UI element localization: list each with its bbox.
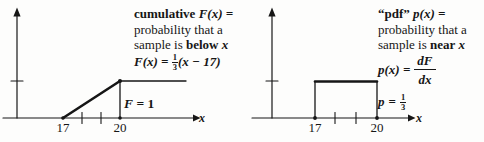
right-x-tick-label-17: 17 — [305, 120, 325, 136]
fraction-denominator: 3 — [400, 103, 406, 112]
right-caption-line1: “pdf” p(x) = — [378, 6, 484, 22]
left-caption: cumulative F(x) = probability that a sam… — [134, 6, 250, 72]
left-caption-line3: sample is below x — [134, 37, 250, 53]
left-y-axis-arrow-icon — [13, 8, 20, 17]
left-caption-line1-math: F(x) = — [199, 6, 234, 21]
fraction-numerator: 1 — [400, 93, 406, 103]
right-caption-line3-math: x — [459, 37, 466, 52]
right-x-axis-arrow-icon — [408, 114, 416, 121]
left-caption-line1-bold: cumulative — [134, 6, 195, 21]
left-caption-line2: probability that a — [134, 22, 250, 38]
right-y-axis-arrow-icon — [268, 8, 275, 17]
right-x-axis-label: x — [416, 111, 422, 126]
left-x-tick-label-17: 17 — [53, 120, 73, 136]
cdf-formula-lhs: F(x) = — [134, 53, 169, 68]
right-caption-line2: probability that a — [378, 22, 484, 38]
left-caption-line3-pre: sample is — [134, 37, 183, 52]
cdf-pdf-figure: 17 20 x F = 1 cumulative F(x) = probabil… — [0, 0, 484, 142]
right-level-label: p = 13 — [378, 93, 484, 112]
cdf-ramp-line — [63, 81, 120, 118]
left-x-tick-label-20: 20 — [110, 120, 130, 136]
cdf-formula-rhs: (x − 17) — [178, 53, 221, 68]
one-third-fraction: 13 — [400, 93, 406, 112]
pdf-derivative-formula: p(x) = dFdx — [378, 54, 484, 86]
left-caption-formula: F(x) = 13(x − 17) — [134, 53, 250, 72]
left-level-label: F = 1 — [124, 96, 154, 112]
left-caption-line3-bold: below — [186, 37, 219, 52]
right-caption-line1-math: p(x) = — [413, 6, 445, 21]
fraction-numerator: dF — [414, 54, 435, 71]
right-x-tick-label-20: 20 — [367, 120, 387, 136]
cdf-corner-point — [118, 79, 122, 83]
right-caption-line3: sample is near x — [378, 37, 484, 53]
dF-dx-fraction: dFdx — [414, 54, 435, 86]
pdf-formula-lhs: p(x) = — [378, 62, 410, 78]
left-level-label-value: = 1 — [133, 96, 154, 111]
left-level-label-var: F — [124, 96, 133, 111]
right-caption-line3-bold: near — [430, 37, 455, 52]
left-x-axis-label: x — [199, 111, 205, 126]
fraction-denominator: dx — [414, 70, 435, 86]
right-caption-line3-pre: sample is — [378, 37, 427, 52]
left-caption-line3-math: x — [222, 37, 229, 52]
right-caption-line1-bold: “pdf” — [378, 6, 410, 21]
right-level-eq: = — [389, 94, 396, 110]
left-caption-line1: cumulative F(x) = — [134, 6, 250, 22]
right-level-var: p — [378, 94, 385, 110]
right-caption: “pdf” p(x) = probability that a sample i… — [378, 6, 484, 112]
